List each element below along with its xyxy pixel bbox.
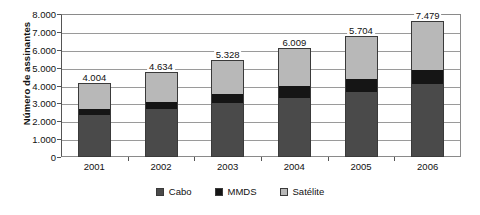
- y-tick-label: 7.000: [10, 26, 56, 37]
- x-tick-label: 2004: [284, 161, 305, 172]
- bar-group[interactable]: [211, 14, 244, 157]
- y-tick-label: 1.000: [10, 134, 56, 145]
- bar-stack[interactable]: [211, 60, 244, 157]
- bar-value-label: 5.704: [347, 25, 375, 36]
- bar-group[interactable]: [411, 14, 444, 157]
- bar-value-label: 6.009: [280, 37, 308, 48]
- bar-stack[interactable]: [78, 83, 111, 157]
- legend-label: Satélite: [293, 186, 325, 197]
- bar-segment-cabo[interactable]: [346, 92, 377, 156]
- bar-value-label: 4.004: [80, 72, 108, 83]
- x-tick-label: 2002: [150, 161, 171, 172]
- chart-legend: CaboMMDSSatélite: [0, 186, 480, 197]
- bar-stack[interactable]: [278, 48, 311, 157]
- legend-swatch-icon: [280, 188, 288, 196]
- bar-value-label: 5.328: [214, 49, 242, 60]
- bar-group[interactable]: [278, 14, 311, 157]
- bar-segment-satelite[interactable]: [146, 73, 177, 101]
- x-tick-mark: [394, 157, 395, 161]
- x-tick-label: 2001: [84, 161, 105, 172]
- legend-swatch-icon: [215, 188, 223, 196]
- bar-segment-cabo[interactable]: [79, 115, 110, 156]
- bar-segment-cabo[interactable]: [279, 98, 310, 156]
- legend-item-cabo[interactable]: Cabo: [156, 186, 192, 197]
- stacked-bar-chart: Número de assinantes 01.0002.0003.0004.0…: [0, 0, 480, 215]
- bar-stack[interactable]: [345, 36, 378, 157]
- legend-item-mmds[interactable]: MMDS: [215, 186, 257, 197]
- x-tick-mark: [128, 157, 129, 161]
- y-tick-label: 0: [10, 152, 56, 163]
- x-tick-label: 2006: [417, 161, 438, 172]
- y-tick-label: 5.000: [10, 62, 56, 73]
- bar-segment-cabo[interactable]: [212, 103, 243, 156]
- x-tick-mark: [261, 157, 262, 161]
- x-tick-mark: [194, 157, 195, 161]
- y-tick-label: 6.000: [10, 44, 56, 55]
- bar-segment-mmds[interactable]: [412, 70, 443, 84]
- bar-segment-cabo[interactable]: [146, 109, 177, 156]
- bar-segment-mmds[interactable]: [279, 86, 310, 98]
- bar-value-label: 4.634: [147, 61, 175, 72]
- bar-segment-mmds[interactable]: [146, 102, 177, 109]
- x-tick-label: 2005: [350, 161, 371, 172]
- bar-segment-cabo[interactable]: [412, 84, 443, 156]
- legend-item-satelite[interactable]: Satélite: [280, 186, 325, 197]
- y-tick-label: 2.000: [10, 116, 56, 127]
- bar-stack[interactable]: [145, 72, 178, 157]
- bar-segment-satelite[interactable]: [346, 37, 377, 79]
- y-tick-mark: [57, 157, 61, 158]
- legend-label: Cabo: [169, 186, 192, 197]
- bar-segment-satelite[interactable]: [79, 84, 110, 109]
- bar-stack[interactable]: [411, 21, 444, 157]
- x-tick-label: 2003: [217, 161, 238, 172]
- bar-segment-satelite[interactable]: [212, 61, 243, 94]
- y-tick-label: 8.000: [10, 9, 56, 20]
- bar-segment-satelite[interactable]: [412, 22, 443, 70]
- y-tick-label: 3.000: [10, 98, 56, 109]
- bar-segment-satelite[interactable]: [279, 49, 310, 86]
- bar-segment-mmds[interactable]: [346, 79, 377, 92]
- legend-swatch-icon: [156, 188, 164, 196]
- bar-group[interactable]: [78, 14, 111, 157]
- bar-group[interactable]: [145, 14, 178, 157]
- bar-segment-mmds[interactable]: [212, 94, 243, 103]
- x-tick-mark: [328, 157, 329, 161]
- bars-layer: [61, 14, 461, 157]
- legend-label: MMDS: [228, 186, 257, 197]
- bar-value-label: 7.479: [414, 10, 442, 21]
- y-tick-label: 4.000: [10, 80, 56, 91]
